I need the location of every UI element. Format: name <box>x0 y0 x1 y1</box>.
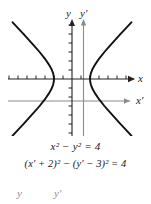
x-prime-axis <box>8 98 130 104</box>
y-prime-axis-label: y′ <box>80 8 87 19</box>
y-axis <box>69 19 76 136</box>
equation-translated: (x′ + 2)² − (y′ − 3)² = 4 <box>0 159 151 170</box>
footer-y-label: y <box>17 188 22 199</box>
x-axis-label: x <box>138 73 143 84</box>
x-prime-axis-label: x′ <box>136 95 143 106</box>
hyperbola-figure: y y′ x x′ x² − y² = 4 (x′ + 2)² − (y′ − … <box>0 0 151 204</box>
y-prime-axis <box>81 19 86 136</box>
y-axis-label: y <box>66 8 71 19</box>
hyperbola-plot <box>0 0 151 136</box>
footer-y-prime-label: y′ <box>54 188 61 199</box>
equation-original: x² − y² = 4 <box>0 141 151 152</box>
